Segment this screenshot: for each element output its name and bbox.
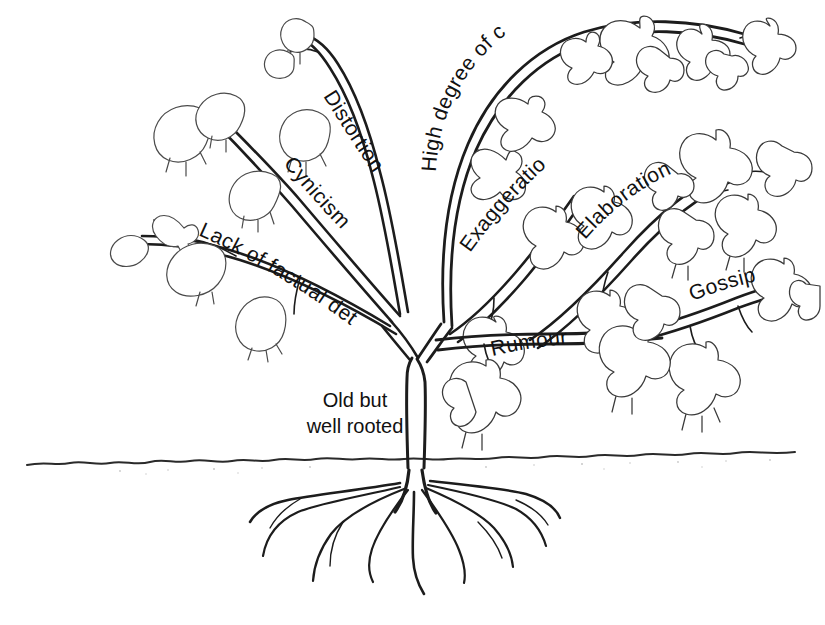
leaf-elaboration-4 (659, 209, 715, 280)
label-old-but-well-rooted: Old but well rooted (290, 388, 420, 439)
leaf-wilted-lack-3 (167, 243, 226, 306)
branch-right-fork (418, 324, 452, 362)
left-fork-a (382, 326, 410, 360)
right-fork-b (427, 328, 452, 362)
gossip-twig-2 (738, 306, 752, 332)
rumour-tree-figure: Rumour tree diagram (0, 0, 825, 625)
leaf-credibility-8 (706, 51, 749, 90)
leaf-wilted-lack-2 (111, 236, 149, 267)
ground-surface (27, 452, 795, 465)
leaf-credibility-6 (743, 18, 796, 74)
root-4 (369, 490, 408, 582)
label-gossip: Gossip (685, 263, 757, 305)
leaf-gossip-1 (669, 342, 740, 432)
leaf-credibility-7 (636, 47, 684, 93)
root-7 (426, 488, 513, 567)
leaf-elaboration-5 (757, 141, 813, 196)
branch-lack-of-factual-detail (111, 216, 396, 363)
rootlet-3 (478, 522, 502, 558)
branch-left-fork (382, 320, 418, 360)
ground-line (27, 452, 795, 475)
label-high-degree-of-credibility: High degree of credibility (0, 0, 510, 172)
root-5 (413, 492, 424, 594)
leaf-wilted-distortion-2 (264, 50, 294, 78)
root-1 (250, 483, 400, 522)
label-exaggeration: Exaggeration (0, 0, 550, 255)
leaf-gossip-5 (789, 281, 820, 320)
leaf-wilted-lack-4 (236, 297, 286, 362)
leaf-credibility-2 (495, 96, 555, 151)
root-system (250, 470, 560, 594)
tree-illustration: Distortion Cynicism Lack of factual deta… (0, 0, 825, 625)
leaf-wilted-cynicism-1 (229, 171, 280, 232)
root-2 (263, 487, 400, 556)
